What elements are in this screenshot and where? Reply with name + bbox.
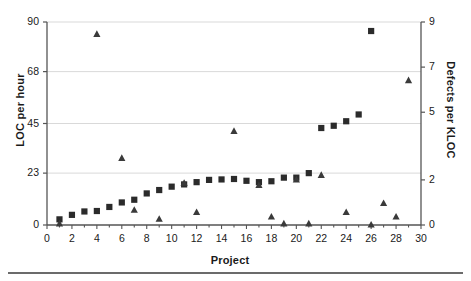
x-tick-label: 12 bbox=[185, 232, 209, 244]
series-defects-per-kloc-points bbox=[56, 30, 412, 227]
data-point-triangle bbox=[380, 199, 387, 206]
data-point-square bbox=[106, 204, 112, 210]
data-point-triangle bbox=[305, 220, 312, 227]
data-point-square bbox=[356, 111, 362, 117]
data-point-square bbox=[169, 184, 175, 190]
y-tick-label-left: 90 bbox=[5, 15, 39, 27]
x-tick-label: 2 bbox=[60, 232, 84, 244]
data-point-square bbox=[368, 28, 374, 34]
data-point-square bbox=[144, 190, 150, 196]
y-tick-label-left: 0 bbox=[5, 218, 39, 230]
data-point-triangle bbox=[280, 220, 287, 227]
x-tick-label: 0 bbox=[35, 232, 59, 244]
chart-figure: LOC per hour Defects per KLOC Project 02… bbox=[0, 0, 471, 281]
y-tick-label-left: 45 bbox=[5, 117, 39, 129]
gridlines bbox=[47, 22, 421, 173]
data-point-triangle bbox=[392, 213, 399, 220]
x-tick-label: 14 bbox=[210, 232, 234, 244]
data-point-triangle bbox=[268, 213, 275, 220]
x-tick-label: 24 bbox=[334, 232, 358, 244]
data-point-triangle bbox=[193, 209, 200, 216]
data-point-triangle bbox=[156, 215, 163, 222]
data-point-triangle bbox=[118, 154, 125, 161]
data-point-square bbox=[343, 118, 349, 124]
y-tick-label-right: 2 bbox=[429, 173, 455, 185]
x-tick-label: 22 bbox=[309, 232, 333, 244]
data-point-square bbox=[131, 197, 137, 203]
data-point-square bbox=[231, 176, 237, 182]
data-point-square bbox=[156, 187, 162, 193]
y-tick-label-left: 23 bbox=[5, 166, 39, 178]
y-tick-label-right: 7 bbox=[429, 60, 455, 72]
data-point-square bbox=[268, 178, 274, 184]
x-tick-label: 4 bbox=[85, 232, 109, 244]
x-tick-label: 20 bbox=[284, 232, 308, 244]
x-tick-label: 28 bbox=[384, 232, 408, 244]
data-point-square bbox=[331, 123, 337, 129]
y-tick-label-right: 9 bbox=[429, 15, 455, 27]
data-point-triangle bbox=[405, 77, 412, 84]
data-point-square bbox=[218, 176, 224, 182]
data-point-triangle bbox=[343, 209, 350, 216]
x-tick-label: 26 bbox=[359, 232, 383, 244]
data-point-square bbox=[281, 175, 287, 181]
data-point-square bbox=[306, 170, 312, 176]
series-loc-per-hour-points bbox=[56, 28, 374, 223]
x-tick-label: 18 bbox=[259, 232, 283, 244]
data-point-square bbox=[94, 208, 100, 214]
data-point-triangle bbox=[368, 221, 375, 228]
data-point-triangle bbox=[93, 30, 100, 37]
y-tick-label-left: 68 bbox=[5, 65, 39, 77]
x-tick-label: 8 bbox=[135, 232, 159, 244]
data-point-triangle bbox=[131, 206, 138, 213]
data-point-square bbox=[69, 212, 75, 218]
x-tick-label: 10 bbox=[160, 232, 184, 244]
data-point-square bbox=[318, 125, 324, 131]
data-point-square bbox=[119, 199, 125, 205]
data-point-square bbox=[81, 208, 87, 214]
x-tick-label: 6 bbox=[110, 232, 134, 244]
y-tick-label-right: 5 bbox=[429, 105, 455, 117]
data-point-square bbox=[206, 177, 212, 183]
data-point-triangle bbox=[318, 171, 325, 178]
x-tick-label: 16 bbox=[234, 232, 258, 244]
data-point-triangle bbox=[230, 127, 237, 134]
y-tick-label-right: 0 bbox=[429, 218, 455, 230]
bottom-divider-rule bbox=[8, 272, 463, 274]
data-point-square bbox=[194, 179, 200, 185]
x-tick-label: 30 bbox=[409, 232, 433, 244]
axis-ticks bbox=[43, 22, 425, 229]
data-point-square bbox=[243, 178, 249, 184]
